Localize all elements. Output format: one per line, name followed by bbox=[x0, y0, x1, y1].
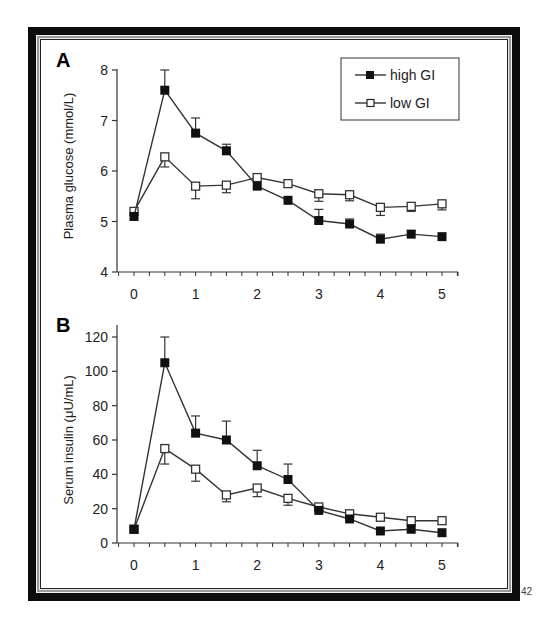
y-tick-label: 40 bbox=[92, 466, 108, 482]
y-tick-label: 0 bbox=[100, 535, 108, 551]
filled-square-marker-icon bbox=[160, 358, 169, 367]
figure-svg: A Plasma glucose (mmol/L) 45678012345 hi… bbox=[0, 0, 555, 629]
x-tick-label: 4 bbox=[377, 286, 385, 302]
y-tick-label: 80 bbox=[92, 398, 108, 414]
x-tick-label: 3 bbox=[315, 557, 323, 573]
panel-a-label: A bbox=[56, 49, 70, 71]
filled-square-marker-icon bbox=[222, 146, 231, 155]
filled-square-marker-icon bbox=[160, 86, 169, 95]
y-tick-label: 5 bbox=[100, 214, 108, 230]
panel-b-plot-area bbox=[130, 337, 447, 537]
filled-square-marker-icon bbox=[222, 436, 231, 445]
panel-b-serum-insulin: B Serum insulin (μU/mL) 0204060801001200… bbox=[56, 314, 458, 573]
y-tick-label: 6 bbox=[100, 163, 108, 179]
panel-a-y-axis-title: Plasma glucose (mmol/L) bbox=[61, 93, 76, 240]
open-square-marker-icon bbox=[346, 191, 354, 199]
filled-square-marker-icon bbox=[314, 216, 323, 225]
open-square-marker-icon bbox=[192, 182, 200, 190]
open-square-marker-icon bbox=[192, 465, 200, 473]
filled-square-marker-icon bbox=[407, 230, 416, 239]
filled-square-marker-icon bbox=[191, 129, 200, 138]
open-square-marker-icon bbox=[376, 203, 384, 211]
series-line-high-gi bbox=[134, 363, 442, 533]
filled-square-marker-icon bbox=[130, 525, 139, 534]
open-square-marker-icon bbox=[438, 517, 446, 525]
open-square-marker-icon bbox=[253, 174, 261, 182]
panel-b-label: B bbox=[56, 314, 70, 336]
filled-square-marker-icon bbox=[438, 528, 447, 537]
filled-square-marker-icon bbox=[314, 506, 323, 515]
filled-square-marker-icon bbox=[191, 429, 200, 438]
y-tick-label: 20 bbox=[92, 501, 108, 517]
x-tick-label: 4 bbox=[377, 557, 385, 573]
x-tick-label: 3 bbox=[315, 286, 323, 302]
filled-square-marker-icon bbox=[130, 212, 139, 221]
panel-b-y-axis-title: Serum insulin (μU/mL) bbox=[61, 375, 76, 505]
y-tick-label: 7 bbox=[100, 113, 108, 129]
page-number: 42 bbox=[521, 586, 532, 597]
filled-square-marker-icon bbox=[345, 514, 354, 523]
x-tick-label: 5 bbox=[438, 286, 446, 302]
filled-square-marker-icon bbox=[253, 182, 262, 191]
x-tick-label: 2 bbox=[253, 286, 261, 302]
y-tick-label: 120 bbox=[85, 329, 109, 345]
x-tick-label: 0 bbox=[130, 557, 138, 573]
open-square-marker-icon bbox=[407, 517, 415, 525]
open-square-marker-icon bbox=[315, 190, 323, 198]
legend: high GI low GI bbox=[341, 58, 459, 120]
open-square-marker-icon bbox=[253, 484, 261, 492]
filled-square-marker-icon bbox=[438, 232, 447, 241]
x-tick-label: 0 bbox=[130, 286, 138, 302]
x-tick-label: 2 bbox=[253, 557, 261, 573]
y-tick-label: 60 bbox=[92, 432, 108, 448]
open-square-marker-icon bbox=[222, 181, 230, 189]
legend-label-low-gi: low GI bbox=[390, 95, 430, 111]
open-square-marker-icon bbox=[284, 494, 292, 502]
filled-square-marker-icon bbox=[284, 475, 293, 484]
y-tick-label: 100 bbox=[85, 363, 109, 379]
open-square-marker-icon bbox=[161, 445, 169, 453]
filled-square-marker-icon bbox=[284, 196, 293, 205]
panel-a-plasma-glucose: A Plasma glucose (mmol/L) 45678012345 hi… bbox=[56, 49, 459, 302]
x-tick-label: 1 bbox=[192, 557, 200, 573]
open-square-marker-icon bbox=[284, 180, 292, 188]
filled-square-marker-icon bbox=[407, 525, 416, 534]
filled-square-marker-icon bbox=[366, 71, 374, 79]
filled-square-marker-icon bbox=[345, 220, 354, 229]
filled-square-marker-icon bbox=[376, 526, 385, 535]
open-square-marker-icon bbox=[407, 202, 415, 210]
series-line-low-gi bbox=[134, 449, 442, 530]
y-tick-label: 4 bbox=[100, 264, 108, 280]
open-square-marker-icon bbox=[376, 513, 384, 521]
x-tick-label: 5 bbox=[438, 557, 446, 573]
open-square-marker-icon bbox=[161, 153, 169, 161]
open-square-marker-icon bbox=[438, 200, 446, 208]
open-square-marker-icon bbox=[222, 491, 230, 499]
panel-b-axes: 020406080100120012345 bbox=[85, 325, 458, 573]
y-tick-label: 8 bbox=[100, 62, 108, 78]
x-tick-label: 1 bbox=[192, 286, 200, 302]
open-square-marker-icon bbox=[367, 100, 374, 107]
legend-label-high-gi: high GI bbox=[390, 67, 435, 83]
filled-square-marker-icon bbox=[376, 235, 385, 244]
filled-square-marker-icon bbox=[253, 461, 262, 470]
